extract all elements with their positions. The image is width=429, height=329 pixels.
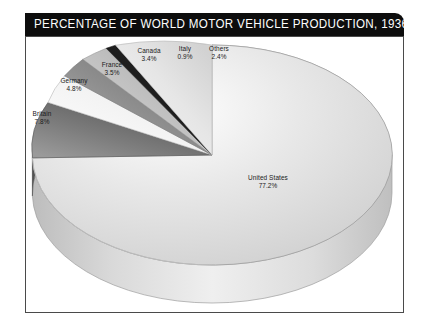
slice-label-germany-value: 4.8% — [48, 85, 100, 93]
slice-label-italy-name: Italy — [169, 45, 200, 53]
slice-label-germany: Germany 4.8% — [48, 77, 100, 93]
slice-label-britain-name: Britain — [16, 110, 68, 118]
slice-label-united-states-name: United States — [235, 174, 301, 182]
chart-figure: PERCENTAGE OF WORLD MOTOR VEHICLE PRODUC… — [0, 0, 429, 329]
slice-label-canada-name: Canada — [130, 47, 169, 55]
slice-label-italy-value: 0.9% — [169, 53, 200, 61]
slice-label-canada-value: 3.4% — [130, 55, 169, 63]
slice-label-others: Others 2.4% — [201, 45, 238, 61]
slice-label-united-states: United States 77.2% — [235, 174, 301, 190]
slice-label-france: France 3.5% — [88, 61, 136, 77]
slice-label-britain-value: 7.8% — [16, 118, 68, 126]
slice-label-others-value: 2.4% — [201, 53, 238, 61]
slice-label-canada: Canada 3.4% — [130, 47, 169, 63]
slice-label-italy: Italy 0.9% — [169, 45, 200, 61]
slice-label-others-name: Others — [201, 45, 238, 53]
chart-title-bar: PERCENTAGE OF WORLD MOTOR VEHICLE PRODUC… — [25, 13, 404, 36]
slice-label-britain: Britain 7.8% — [16, 110, 68, 126]
slice-label-germany-name: Germany — [48, 77, 100, 85]
page-title: PERCENTAGE OF WORLD MOTOR VEHICLE PRODUC… — [34, 17, 404, 32]
slice-label-france-value: 3.5% — [88, 69, 136, 77]
slice-label-united-states-value: 77.2% — [235, 182, 301, 190]
